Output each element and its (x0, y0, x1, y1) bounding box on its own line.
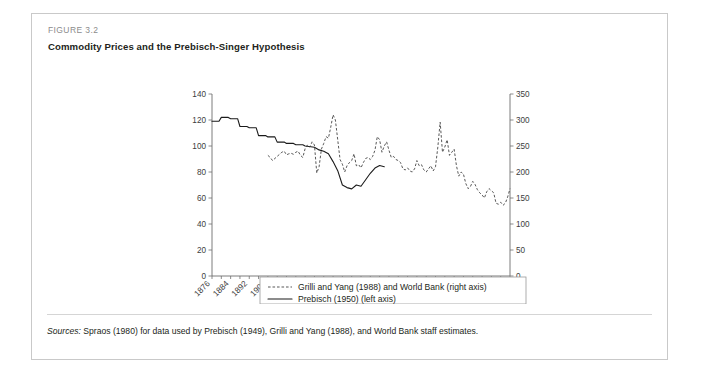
x-axis-tick: 1892 (230, 279, 250, 299)
right-axis-tick: 100 (516, 220, 530, 229)
commodity-prices-line-chart: 020406080100120140 050100150200250300350… (32, 74, 667, 304)
figure-title: Commodity Prices and the Prebisch-Singer… (48, 41, 305, 52)
right-axis-tick: 300 (516, 116, 530, 125)
series-prebisch (212, 117, 384, 188)
right-axis-tick: 250 (516, 142, 530, 151)
legend-item-label: Prebisch (1950) (left axis) (298, 294, 396, 304)
right-axis-tick-labels: 050100150200250300350 (516, 90, 530, 281)
right-axis-tick: 350 (516, 90, 530, 99)
left-axis-tick: 80 (197, 168, 207, 177)
series-grilli-yang (268, 115, 510, 205)
legend-item-label: Grilli and Yang (1988) and World Bank (r… (298, 282, 487, 292)
right-axis-tick: 50 (516, 246, 526, 255)
source-note-body: Spraos (1980) for data used by Prebisch … (81, 326, 478, 336)
left-axis-tick: 140 (192, 90, 206, 99)
left-axis-tick-labels: 020406080100120140 (192, 90, 206, 281)
left-axis-tick: 120 (192, 116, 206, 125)
chart-series (212, 115, 510, 205)
left-axis-tick: 40 (197, 220, 207, 229)
left-axis-tick: 60 (197, 194, 207, 203)
right-axis-tick: 150 (516, 194, 530, 203)
x-axis-tick: 1876 (193, 279, 213, 299)
chart-plot-area: 020406080100120140 050100150200250300350… (32, 74, 667, 304)
right-axis-tick: 200 (516, 168, 530, 177)
left-axis-tick: 20 (197, 246, 207, 255)
source-note: Sources: Spraos (1980) for data used by … (47, 326, 478, 336)
figure-number-label: FIGURE 3.2 (48, 25, 98, 35)
left-axis-tick: 100 (192, 142, 206, 151)
source-note-lead: Sources: (47, 326, 81, 336)
x-axis-tick: 1884 (211, 279, 231, 299)
source-divider (47, 314, 652, 315)
chart-legend: Grilli and Yang (1988) and World Bank (r… (260, 277, 526, 304)
chart-axes (212, 94, 510, 276)
figure-frame: FIGURE 3.2 Commodity Prices and the Preb… (31, 13, 668, 360)
